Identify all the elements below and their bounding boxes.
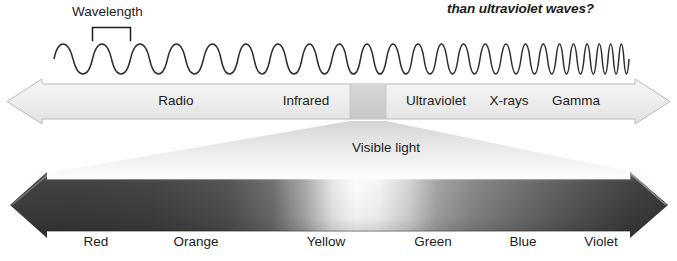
colour-label-yellow: Yellow xyxy=(307,234,346,249)
electromagnetic-wave-curve xyxy=(54,44,629,74)
colour-label-red: Red xyxy=(84,234,109,249)
visible-light-caption: Visible light xyxy=(352,140,420,155)
electromagnetic-spectrum-diagram: than ultraviolet waves? Wavelength xyxy=(0,0,677,261)
band-label-xrays: X-rays xyxy=(489,93,528,108)
colour-label-blue: Blue xyxy=(509,234,536,249)
visible-light-funnel xyxy=(18,121,662,178)
band-label-gamma: Gamma xyxy=(552,93,600,108)
band-label-infrared: Infrared xyxy=(283,93,330,108)
colour-label-violet: Violet xyxy=(584,234,618,249)
colour-label-green: Green xyxy=(414,234,452,249)
visible-light-spectrum-arrow xyxy=(10,172,668,238)
diagram-graphics-layer xyxy=(0,0,677,261)
colour-label-orange: Orange xyxy=(173,234,218,249)
wavelength-bracket xyxy=(93,28,131,41)
visible-light-segment xyxy=(350,85,386,120)
band-label-ultraviolet: Ultraviolet xyxy=(406,93,466,108)
band-label-radio: Radio xyxy=(158,93,193,108)
